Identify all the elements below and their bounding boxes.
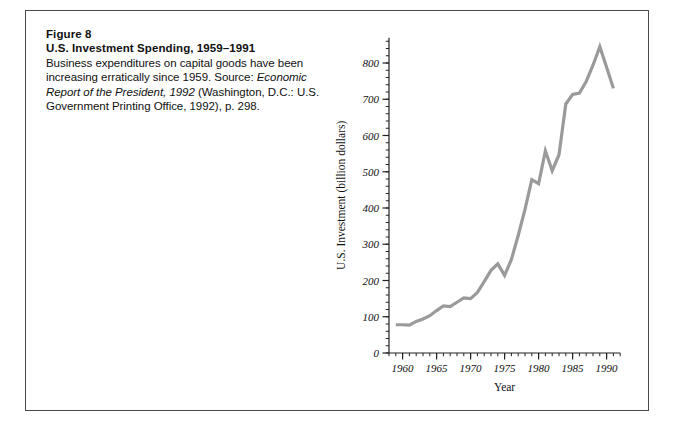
figure-caption-block: Figure 8 U.S. Investment Spending, 1959–… xyxy=(46,28,331,114)
figure-title: U.S. Investment Spending, 1959–1991 xyxy=(46,41,331,55)
figure-caption-text: Business expenditures on capital goods h… xyxy=(46,56,331,114)
figure-number: Figure 8 xyxy=(46,28,331,41)
figure-page: Figure 8 U.S. Investment Spending, 1959–… xyxy=(0,0,675,422)
